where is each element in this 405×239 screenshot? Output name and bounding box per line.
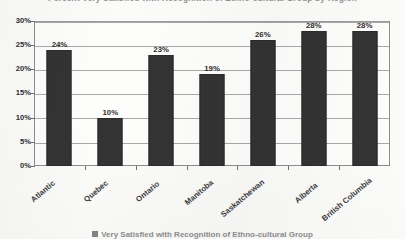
chart-page: Percent Very Satisfied with Recognition …	[0, 0, 405, 239]
legend-label: Very Satisfied with Recognition of Ethno…	[101, 230, 313, 239]
legend-swatch-icon	[92, 231, 98, 237]
x-label-atlantic: Atlantic	[29, 179, 57, 204]
x-label-alberta: Alberta	[293, 181, 319, 205]
x-label-saskatchewan: Saskatchewan	[219, 178, 266, 219]
x-label-manitoba: Manitoba	[183, 178, 215, 207]
x-label-ontario: Ontario	[134, 179, 161, 204]
x-label-quebec: Quebec	[82, 179, 110, 204]
chart-legend: Very Satisfied with Recognition of Ethno…	[0, 230, 405, 239]
x-label-british-columbia: British Columbia	[320, 176, 374, 223]
x-axis-labels: Atlantic Quebec Ontario Manitoba Saskatc…	[0, 0, 405, 239]
